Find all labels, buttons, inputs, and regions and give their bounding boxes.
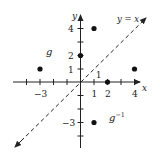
series-g-inverse <box>91 79 110 125</box>
identity-line-lower-arrow <box>15 138 24 147</box>
point-g <box>91 26 96 31</box>
x-axis-label: x <box>142 83 147 93</box>
y-axis-label: y <box>71 11 78 21</box>
x-tick-label: 4 <box>132 89 138 99</box>
point-g-inverse <box>105 79 110 84</box>
g-label: g <box>46 46 52 57</box>
point-g <box>37 66 42 71</box>
point-g <box>78 53 83 58</box>
line-label: y = x <box>116 14 139 24</box>
x-tick-label: −3 <box>34 89 48 99</box>
graph-figure: x y y = x −3 1 2 4 4 2 1 −3 1 g g−1 <box>0 0 160 157</box>
x-tick-label: 2 <box>105 89 111 99</box>
point-g-inverse <box>91 120 96 125</box>
unit-label: 1 <box>96 70 101 80</box>
x-tick-label: 1 <box>92 89 98 99</box>
y-tick-label: 2 <box>68 51 74 61</box>
y-tick-label: 1 <box>68 65 74 75</box>
y-tick-label: 4 <box>68 24 74 34</box>
y-tick-label: −3 <box>62 118 76 128</box>
point-g <box>132 66 137 71</box>
g-inverse-label: g−1 <box>109 111 125 123</box>
